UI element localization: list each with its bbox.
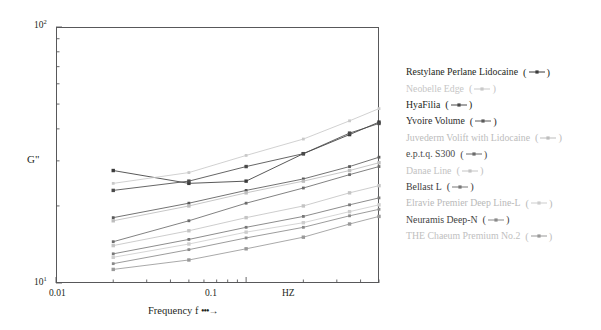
legend-paren-close: ) bbox=[549, 198, 553, 209]
legend-paren-open: ( bbox=[470, 116, 474, 127]
chart-plot-area: 102 101 G" 0.01 0.1 HZ Frequency f •••→ bbox=[0, 0, 400, 330]
line-marker-icon bbox=[530, 199, 548, 207]
legend-item-marker: () bbox=[525, 231, 552, 242]
line-marker-icon bbox=[450, 101, 468, 109]
legend-item[interactable]: Juvederm Volift with Lidocaine() bbox=[406, 130, 601, 146]
legend-item[interactable]: THE Chaeum Premium No.2() bbox=[406, 228, 601, 244]
line-marker-icon bbox=[473, 85, 491, 93]
axis-ticks bbox=[56, 27, 379, 283]
legend-item-marker: () bbox=[456, 165, 483, 176]
legend-item-label: HyaFilia bbox=[406, 100, 440, 110]
legend-paren-open: ( bbox=[483, 214, 487, 225]
legend-paren-open: ( bbox=[525, 231, 529, 242]
data-series bbox=[112, 120, 381, 185]
legend-item[interactable]: HyaFilia() bbox=[406, 97, 601, 113]
legend-paren-close: ) bbox=[493, 116, 497, 127]
legend-paren-close: ) bbox=[547, 67, 551, 78]
data-series bbox=[112, 215, 381, 271]
line-marker-icon bbox=[539, 134, 557, 142]
legend-item-label: THE Chaeum Premium No.2 bbox=[406, 231, 520, 241]
legend-item-marker: () bbox=[535, 132, 562, 143]
chart-legend: Restylane Perlane Lidocaine()Neobelle Ed… bbox=[406, 64, 601, 244]
legend-item[interactable]: e.p.t.q. S300() bbox=[406, 146, 601, 162]
legend-item-label: Bellast L bbox=[406, 182, 442, 192]
legend-paren-close: ) bbox=[558, 132, 562, 143]
legend-paren-close: ) bbox=[480, 165, 484, 176]
legend-item-label: Danae Line bbox=[406, 166, 451, 176]
legend-paren-close: ) bbox=[492, 83, 496, 94]
line-marker-icon bbox=[528, 68, 546, 76]
legend-item-label: Elravie Premier Deep Line-L bbox=[406, 198, 521, 208]
legend-item-marker: () bbox=[445, 99, 472, 110]
data-series-group bbox=[112, 107, 381, 271]
legend-item[interactable]: Neobelle Edge() bbox=[406, 80, 601, 96]
legend-item-marker: () bbox=[469, 83, 496, 94]
legend-item-label: Restylane Perlane Lidocaine bbox=[406, 67, 518, 77]
legend-item[interactable]: Neuramis Deep-N() bbox=[406, 212, 601, 228]
legend-item-label: Neuramis Deep-N bbox=[406, 215, 478, 225]
legend-paren-open: ( bbox=[535, 132, 539, 143]
line-marker-icon bbox=[487, 216, 505, 224]
legend-item-marker: () bbox=[526, 198, 553, 209]
legend-item[interactable]: Yvoire Volume() bbox=[406, 113, 601, 129]
legend-paren-open: ( bbox=[460, 149, 464, 160]
x-axis-title-text: Frequency f bbox=[148, 305, 198, 316]
legend-paren-close: ) bbox=[484, 149, 488, 160]
legend-paren-open: ( bbox=[447, 181, 451, 192]
legend-paren-close: ) bbox=[469, 99, 473, 110]
legend-paren-open: ( bbox=[523, 67, 527, 78]
legend-item[interactable]: Restylane Perlane Lidocaine() bbox=[406, 64, 601, 80]
legend-paren-open: ( bbox=[469, 83, 473, 94]
data-series bbox=[112, 197, 381, 256]
legend-item-label: Neobelle Edge bbox=[406, 84, 464, 94]
legend-item-label: Juvederm Volift with Lidocaine bbox=[406, 133, 530, 143]
legend-paren-close: ) bbox=[549, 231, 553, 242]
arrow-icon: •••→ bbox=[201, 305, 218, 316]
legend-item-marker: () bbox=[523, 67, 550, 78]
legend-item-marker: () bbox=[483, 214, 510, 225]
chart-svg bbox=[0, 0, 400, 330]
line-marker-icon bbox=[474, 117, 492, 125]
x-axis-title: Frequency f •••→ bbox=[148, 305, 218, 316]
line-marker-icon bbox=[530, 232, 548, 240]
legend-item-marker: () bbox=[470, 116, 497, 127]
legend-item-label: e.p.t.q. S300 bbox=[406, 149, 455, 159]
line-marker-icon bbox=[461, 167, 479, 175]
legend-paren-close: ) bbox=[506, 214, 510, 225]
legend-paren-close: ) bbox=[470, 181, 474, 192]
x-axis-tick-label-1: 0.1 bbox=[205, 288, 217, 298]
line-marker-icon bbox=[451, 183, 469, 191]
legend-item-marker: () bbox=[460, 149, 487, 160]
legend-item[interactable]: Bellast L() bbox=[406, 179, 601, 195]
legend-paren-open: ( bbox=[526, 198, 530, 209]
data-series bbox=[112, 161, 381, 222]
line-marker-icon bbox=[465, 150, 483, 158]
legend-item-label: Yvoire Volume bbox=[406, 116, 465, 126]
legend-item-marker: () bbox=[447, 181, 474, 192]
legend-item[interactable]: Danae Line() bbox=[406, 162, 601, 178]
legend-paren-open: ( bbox=[445, 99, 449, 110]
data-series bbox=[112, 107, 381, 185]
x-axis-unit-label: HZ bbox=[282, 288, 295, 298]
legend-item[interactable]: Elravie Premier Deep Line-L() bbox=[406, 195, 601, 211]
legend-paren-open: ( bbox=[456, 165, 460, 176]
x-axis-tick-label-0: 0.01 bbox=[49, 288, 66, 298]
